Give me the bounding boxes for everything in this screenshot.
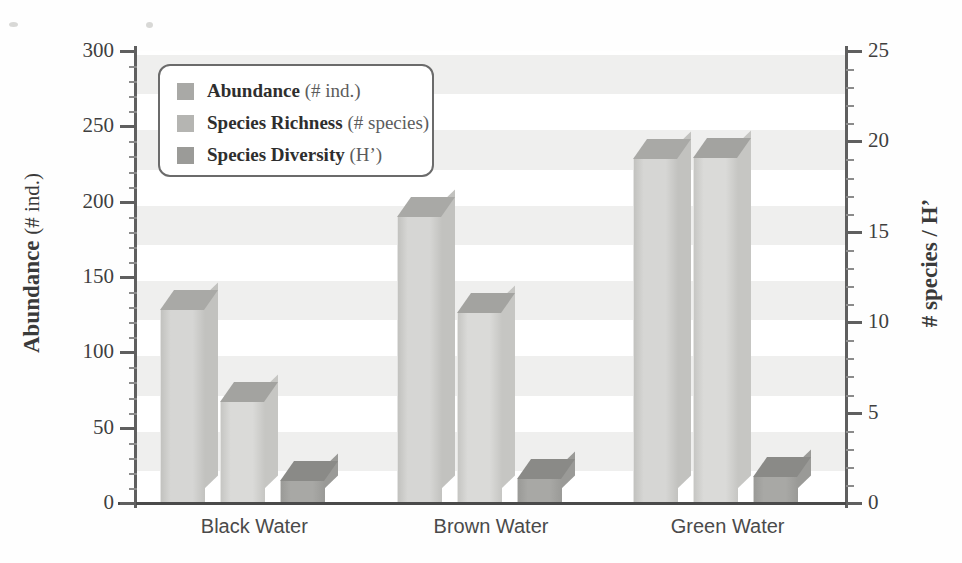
y-axis-right-title: # species / H’ [917, 93, 943, 433]
axis-minor-tick-right [846, 286, 854, 288]
bar-front-face [693, 158, 738, 503]
axis-minor-tick-left [129, 111, 137, 113]
bar-abundance-green-water [633, 145, 677, 503]
axis-minor-tick-left [129, 141, 137, 143]
axis-minor-tick-left [129, 187, 137, 189]
axis-minor-tick-left [129, 413, 137, 415]
bar-species-richness-brown-water [457, 299, 501, 503]
bar-front-face [633, 159, 678, 503]
axis-minor-tick-right [846, 304, 854, 306]
axis-tick-label-left: 100 [60, 341, 114, 362]
axis-tick-label-right: 0 [868, 492, 879, 513]
bar-side-face [737, 130, 751, 489]
bar-top-face [753, 457, 811, 477]
axis-minor-tick-right [846, 449, 854, 451]
legend-label: Abundance (# ind.) [207, 80, 361, 102]
axis-minor-tick-left [129, 458, 137, 460]
axis-minor-tick-left [129, 96, 137, 98]
axis-tick-label-right: 25 [868, 40, 889, 61]
axis-minor-tick-right [846, 196, 854, 198]
axis-minor-tick-right [846, 467, 854, 469]
axis-minor-tick-left [129, 66, 137, 68]
axis-tick-label-left: 250 [60, 115, 114, 136]
axis-tick-left [120, 276, 136, 279]
bar-chart: 050100150200250300 0510152025 Abundance … [0, 0, 962, 563]
axis-tick-left [120, 351, 136, 354]
axis-tick-label-left: 0 [60, 492, 114, 513]
axis-minor-tick-right [846, 178, 854, 180]
bar-front-face [397, 217, 442, 503]
axis-minor-tick-right [846, 159, 854, 161]
axis-tick-label-left: 150 [60, 266, 114, 287]
axis-minor-tick-left [129, 337, 137, 339]
category-label-black-water: Black Water [164, 515, 344, 538]
axis-tick-left [120, 125, 136, 128]
axis-minor-tick-left [129, 443, 137, 445]
bar-side-face [677, 132, 691, 489]
legend-item-species-diversity: Species Diversity (H’) [160, 139, 432, 171]
axis-tick-label-left: 50 [60, 417, 114, 438]
axis-minor-tick-right [846, 105, 854, 107]
axis-minor-tick-left [129, 488, 137, 490]
bar-species-diversity-black-water [280, 467, 324, 503]
y-axis-left-title-paren: (# ind.) [20, 173, 44, 235]
bar-top-face [517, 459, 575, 479]
scan-artifact [9, 22, 18, 27]
legend-swatch [177, 83, 194, 100]
bar-front-face [753, 477, 798, 503]
axis-minor-tick-left [129, 156, 137, 158]
bar-front-face [517, 479, 562, 503]
axis-minor-tick-right [846, 87, 854, 89]
bar-top-face [397, 197, 455, 217]
axis-tick-label-right: 15 [868, 221, 889, 242]
axis-minor-tick-left [129, 232, 137, 234]
bar-abundance-black-water [160, 296, 204, 503]
bar-top-face [457, 293, 515, 313]
axis-minor-tick-left [129, 81, 137, 83]
axis-minor-tick-left [129, 172, 137, 174]
bar-top-face [693, 138, 751, 158]
bar-front-face [457, 313, 502, 503]
bar-front-face [160, 310, 205, 503]
axis-minor-tick-right [846, 431, 854, 433]
axis-tick-left [120, 427, 136, 430]
bar-side-face [441, 189, 455, 489]
legend-label: Species Richness (# species) [207, 112, 429, 134]
bar-abundance-brown-water [397, 203, 441, 503]
bar-species-diversity-brown-water [517, 465, 561, 503]
axis-tick-left [120, 50, 136, 53]
axis-minor-tick-left [129, 367, 137, 369]
bar-species-diversity-green-water [753, 463, 797, 503]
axis-minor-tick-left [129, 247, 137, 249]
axis-tick-label-right: 5 [868, 402, 879, 423]
axis-minor-tick-left [129, 382, 137, 384]
axis-tick-label-right: 10 [868, 311, 889, 332]
bar-top-face [633, 139, 691, 159]
y-axis-left-title: Abundance (# ind.) [19, 93, 45, 433]
legend-swatch [177, 147, 194, 164]
axis-minor-tick-left [129, 398, 137, 400]
axis-tick-right [846, 412, 862, 415]
bar-top-face [160, 290, 218, 310]
axis-minor-tick-right [846, 69, 854, 71]
axis-tick-right [846, 50, 862, 53]
scan-artifact [146, 22, 153, 28]
legend-item-abundance: Abundance (# ind.) [160, 75, 432, 107]
axis-minor-tick-left [129, 292, 137, 294]
axis-tick-right [846, 140, 862, 143]
bar-top-face [220, 382, 278, 402]
bar-top-face [280, 461, 338, 481]
axis-minor-tick-right [846, 395, 854, 397]
bar-side-face [204, 283, 218, 489]
bar-side-face [501, 286, 515, 489]
axis-minor-tick-right [846, 485, 854, 487]
axis-minor-tick-right [846, 376, 854, 378]
chart-legend: Abundance (# ind.)Species Richness (# sp… [158, 64, 434, 177]
axis-tick-label-left: 300 [60, 40, 114, 61]
axis-minor-tick-right [846, 123, 854, 125]
axis-tick-right [846, 321, 862, 324]
bar-species-richness-green-water [693, 144, 737, 503]
y-axis-right-line [845, 46, 848, 508]
legend-label: Species Diversity (H’) [207, 144, 382, 166]
axis-minor-tick-left [129, 322, 137, 324]
